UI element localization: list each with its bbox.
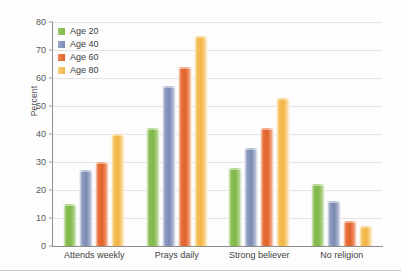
y-tick-label: 80: [18, 17, 46, 27]
legend-label: Age 20: [70, 26, 99, 37]
bar-age-60-attends-weekly: [95, 162, 109, 246]
y-tick-label: 0: [18, 241, 46, 251]
legend-swatch-icon: [58, 41, 65, 48]
y-tick-label: 30: [18, 157, 46, 167]
bar-age-60-no-religion: [343, 221, 357, 246]
bar-age-40-prays-daily: [162, 86, 176, 246]
legend-item-age-40[interactable]: Age 40: [58, 39, 99, 50]
legend-swatch-icon: [58, 54, 65, 61]
y-tick-label: 70: [18, 45, 46, 55]
bar-age-40-attends-weekly: [79, 170, 93, 246]
x-axis-line: [52, 246, 383, 247]
bar-age-60-prays-daily: [178, 67, 192, 246]
bar-age-60-strong-believer: [260, 128, 274, 246]
legend: Age 20Age 40Age 60Age 80: [58, 26, 99, 76]
legend-item-age-60[interactable]: Age 60: [58, 52, 99, 63]
bar-age-20-no-religion: [311, 184, 325, 246]
bar-group: [218, 22, 301, 246]
x-tick-label: Strong believer: [229, 250, 290, 260]
bar-age-20-strong-believer: [228, 168, 242, 246]
x-tick-label: Prays daily: [155, 250, 199, 260]
bottom-divider: [0, 270, 401, 271]
bar-age-20-attends-weekly: [63, 204, 77, 246]
bar-age-80-no-religion: [359, 226, 373, 246]
x-tick-label: Attends weekly: [64, 250, 125, 260]
legend-label: Age 60: [70, 52, 99, 63]
legend-label: Age 40: [70, 39, 99, 50]
bar-group: [301, 22, 384, 246]
bar-age-80-prays-daily: [194, 36, 208, 246]
bar-age-80-strong-believer: [276, 98, 290, 246]
legend-item-age-80[interactable]: Age 80: [58, 65, 99, 76]
y-tick-label: 10: [18, 213, 46, 223]
y-tick-label: 40: [18, 129, 46, 139]
y-tick-label: 60: [18, 73, 46, 83]
bar-chart-figure: Percent 01020304050607080 Attends weekly…: [0, 0, 401, 277]
legend-item-age-20[interactable]: Age 20: [58, 26, 99, 37]
y-tick-label: 20: [18, 185, 46, 195]
bar-group: [136, 22, 219, 246]
legend-swatch-icon: [58, 67, 65, 74]
bar-age-80-attends-weekly: [111, 134, 125, 246]
bar-age-20-prays-daily: [146, 128, 160, 246]
plot-area: [53, 22, 383, 246]
legend-label: Age 80: [70, 65, 99, 76]
legend-swatch-icon: [58, 28, 65, 35]
y-tick-label: 50: [18, 101, 46, 111]
x-tick-label: No religion: [320, 250, 363, 260]
bar-age-40-strong-believer: [244, 148, 258, 246]
bar-age-40-no-religion: [327, 201, 341, 246]
